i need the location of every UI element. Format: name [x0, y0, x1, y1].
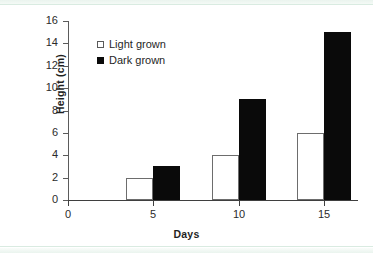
bar-dark-grown-day-10 [239, 99, 266, 200]
x-tick-label-0: 0 [53, 208, 83, 220]
bar-light-grown-day-10 [212, 155, 239, 200]
legend-item-dark-grown: Dark grown [97, 52, 166, 68]
y-tick-label-text: 2 [34, 172, 58, 183]
bar-dark-grown-day-5 [153, 166, 180, 200]
chart-figure: Height (cm) 0246810121416 051015 Light g… [0, 0, 373, 253]
scan-rule-bottom [0, 246, 373, 247]
bar-dark-grown-day-15 [324, 32, 351, 200]
legend-item-label: Dark grown [109, 54, 165, 66]
y-tick-label-text: 4 [34, 149, 58, 160]
scan-band-bottom [0, 248, 373, 253]
filled-square-icon [97, 57, 104, 64]
legend-item-label: Light grown [109, 38, 166, 50]
x-tick-15 [324, 201, 325, 206]
y-tick-label-text: 0 [34, 194, 58, 205]
open-square-icon [97, 41, 104, 48]
x-tick-0 [68, 201, 69, 206]
x-tick-label-10: 10 [224, 208, 254, 220]
legend-item-light-grown: Light grown [97, 36, 166, 52]
y-tick-label-text: 8 [34, 105, 58, 116]
x-tick-label-5: 5 [138, 208, 168, 220]
x-tick-10 [239, 201, 240, 206]
y-tick-label-text: 6 [34, 127, 58, 138]
x-axis-line [68, 200, 358, 201]
x-tick-5 [153, 201, 154, 206]
scan-rule-top [0, 4, 373, 5]
y-tick-label-text: 10 [34, 82, 58, 93]
bar-light-grown-day-15 [297, 133, 324, 200]
y-tick-label-text: 12 [34, 60, 58, 71]
x-axis-title: Days [0, 228, 373, 240]
y-tick-label-text: 14 [34, 37, 58, 48]
x-tick-label-15: 15 [309, 208, 339, 220]
chart-legend: Light grownDark grown [97, 36, 166, 68]
bar-light-grown-day-5 [126, 178, 153, 200]
y-tick-label-text: 16 [34, 15, 58, 26]
